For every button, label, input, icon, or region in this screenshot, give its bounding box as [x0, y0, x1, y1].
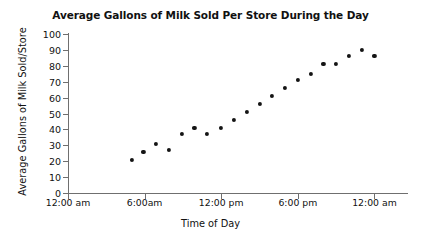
- data-point: [232, 118, 236, 122]
- y-tick-label: 10: [3, 172, 61, 183]
- data-point: [372, 54, 376, 58]
- y-tick-label: 20: [3, 156, 61, 167]
- y-tick-label: 60: [3, 92, 61, 103]
- x-tick-label: 12:00 am: [352, 197, 397, 208]
- data-point: [205, 132, 209, 136]
- y-tick-label: 40: [3, 124, 61, 135]
- y-tick-label: 30: [3, 140, 61, 151]
- x-tick-label: 12:00 pm: [199, 197, 244, 208]
- chart-title: Average Gallons of Milk Sold Per Store D…: [0, 9, 421, 21]
- x-tick-label: 6:00am: [127, 197, 163, 208]
- data-point: [347, 54, 351, 58]
- data-point: [219, 126, 223, 130]
- y-tick-label: 80: [3, 60, 61, 71]
- x-tick-label: 6:00 pm: [278, 197, 317, 208]
- data-point: [283, 86, 287, 90]
- data-point: [321, 62, 325, 66]
- data-point: [270, 94, 274, 98]
- data-point: [130, 158, 134, 162]
- data-point: [309, 72, 313, 76]
- data-point: [245, 110, 249, 114]
- data-point: [360, 48, 364, 52]
- chart-container: Average Gallons of Milk Sold Per Store D…: [0, 0, 421, 244]
- data-point: [180, 132, 184, 136]
- data-point: [141, 150, 145, 154]
- data-point: [296, 78, 300, 82]
- data-point: [167, 148, 171, 152]
- data-point: [154, 142, 158, 146]
- x-axis-line: [68, 193, 408, 194]
- y-tick-label: 50: [3, 108, 61, 119]
- data-point: [192, 126, 196, 130]
- x-axis-label: Time of Day: [0, 218, 421, 229]
- y-tick-label: 70: [3, 76, 61, 87]
- data-point: [334, 62, 338, 66]
- y-tick-label: 100: [3, 29, 61, 40]
- plot-area: [68, 34, 400, 193]
- y-tick-label: 90: [3, 44, 61, 55]
- data-point: [257, 102, 261, 106]
- x-tick-label: 12:00 am: [46, 197, 91, 208]
